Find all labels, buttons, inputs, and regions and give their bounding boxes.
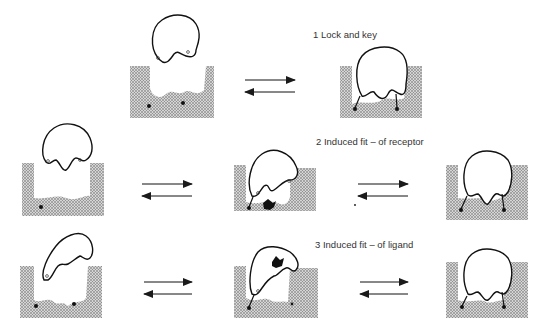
panel-induced-fit-receptor: 2 Induced fit – of receptor [22,124,528,220]
binding-site-dot [459,208,463,212]
ligand-1-bound [357,47,407,98]
binding-site-dot [460,305,464,309]
stray-dot [354,204,356,206]
ligand-3-unbound [43,234,93,280]
receptor-2-unbound [22,163,104,216]
binding-site-dot [147,104,151,108]
binding-site-dot [291,303,294,306]
binding-site-dot [502,305,506,309]
panel-label-3: 3 Induced fit – of ligand [315,239,413,250]
binding-site-dot [247,206,251,210]
ligand-2-unbound [43,124,92,170]
binding-site-dot [39,205,43,209]
panel-label-2: 2 Induced fit – of receptor [316,136,424,147]
ligand-3-bound [464,249,512,300]
panel-label-1: 1 Lock and key [313,29,377,40]
receptor-1-unbound [130,66,214,118]
ligand-2-bound [464,151,512,204]
binding-site-dot [34,304,38,308]
receptor-3-unbound [20,266,102,318]
binding-site-dot [72,302,76,306]
binding-diagram: 1 Lock and key 2 Induced fit – of recept… [0,0,548,336]
panel-lock-and-key: 1 Lock and key [130,15,422,118]
binding-site-dot [502,208,506,212]
binding-site-dot [181,101,185,105]
ligand-1-unbound [152,15,199,62]
panel-induced-fit-ligand: 3 Induced fit – of ligand [20,234,528,318]
binding-site-dot [353,107,357,111]
binding-site-dot [247,306,251,310]
binding-site-dot [395,107,399,111]
